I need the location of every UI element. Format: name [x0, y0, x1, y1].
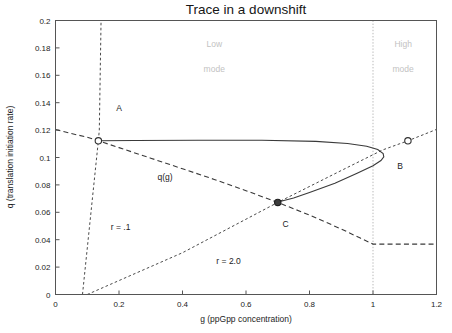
- marker-a: [95, 138, 101, 144]
- curve-label-r-high: r = 2.0: [216, 256, 241, 266]
- y-tick-label: 0.02: [35, 263, 51, 272]
- y-tick-label: 0.18: [35, 44, 51, 53]
- x-tick-label: 1: [371, 300, 376, 309]
- chart-title: Trace in a downshift: [186, 2, 307, 17]
- y-tick-label: 0.1: [39, 154, 51, 163]
- region-label-low: Low: [206, 39, 222, 49]
- x-tick-label: 0.2: [113, 300, 125, 309]
- x-tick-label: 0.6: [240, 300, 252, 309]
- point-label-a: A: [116, 103, 122, 113]
- point-label-b: B: [397, 161, 403, 171]
- x-axis-title: g (ppGpp concentration): [200, 314, 292, 324]
- curve-label-qg: q(g): [157, 172, 172, 182]
- y-tick-label: 0.16: [35, 71, 51, 80]
- point-label-c: C: [283, 219, 289, 229]
- y-tick-label: 0: [46, 291, 51, 300]
- x-tick-label: 1.2: [431, 300, 443, 309]
- y-tick-label: 0.14: [35, 99, 51, 108]
- x-tick-label: 0.8: [304, 300, 316, 309]
- marker-b: [405, 138, 411, 144]
- y-tick-label: 0.04: [35, 236, 51, 245]
- region-label-high-mode: mode: [393, 64, 415, 74]
- x-tick-label: 0.4: [177, 300, 189, 309]
- chart-figure: Trace in a downshift 00.020.040.060.080.…: [0, 0, 452, 333]
- chart-background: [0, 0, 452, 333]
- region-label-low-mode: mode: [204, 64, 226, 74]
- marker-c: [275, 199, 281, 205]
- chart-canvas: Trace in a downshift 00.020.040.060.080.…: [0, 0, 452, 333]
- y-tick-label: 0.2: [39, 17, 51, 26]
- y-tick-label: 0.08: [35, 181, 51, 190]
- x-tick-label: 0: [53, 300, 58, 309]
- y-axis-title: q (translation initiation rate): [5, 106, 15, 209]
- y-tick-label: 0.06: [35, 208, 51, 217]
- region-label-high: High: [394, 39, 412, 49]
- y-tick-label: 0.12: [35, 126, 51, 135]
- curve-label-r-low: r = .1: [111, 222, 131, 232]
